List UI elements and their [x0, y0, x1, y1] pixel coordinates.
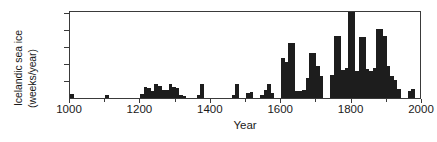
- y-axis-title: Icelandic sea ice (weeks/year): [0, 0, 34, 118]
- x-axis-tick-label: 1800: [338, 104, 364, 116]
- x-axis-tick-label: 1600: [267, 104, 293, 116]
- x-axis-tick-label: 2000: [408, 104, 434, 116]
- y-axis-title-line-2: (weeks/year): [27, 49, 38, 108]
- y-axis-tick: [64, 81, 69, 82]
- x-axis-tick: [175, 99, 176, 102]
- y-axis-tick: [64, 47, 69, 48]
- chart-figure: Icelandic sea ice (weeks/year) 51525 100…: [0, 0, 437, 142]
- x-axis-title: Year: [69, 120, 421, 132]
- x-axis-tick: [386, 99, 387, 102]
- y-axis-title-line-1: Icelandic sea ice: [13, 30, 24, 106]
- y-axis-tick: [64, 30, 69, 31]
- y-axis-tick: [64, 64, 69, 65]
- y-axis: 51525: [69, 11, 421, 99]
- x-axis-tick: [315, 99, 316, 102]
- x-axis-tick-label: 1400: [197, 104, 223, 116]
- x-axis-tick: [104, 99, 105, 102]
- x-axis-tick-label: 1000: [56, 104, 82, 116]
- y-axis-tick: [64, 13, 69, 14]
- x-axis-tick-label: 1200: [127, 104, 153, 116]
- x-axis-tick: [245, 99, 246, 102]
